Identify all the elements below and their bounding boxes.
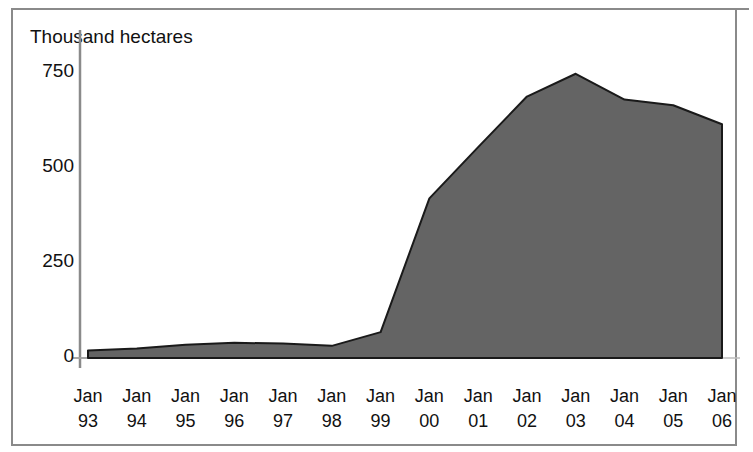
area-series-area [88,74,722,358]
x-tick-year: 95 [171,409,200,434]
x-tick-month: Jan [171,384,200,409]
x-tick-month: Jan [707,384,736,409]
x-tick-month: Jan [464,384,493,409]
x-tick-year: 01 [464,409,493,434]
x-axis-tick-labels: Jan93Jan94Jan95Jan96Jan97Jan98Jan99Jan00… [0,384,753,444]
x-tick-year: 03 [561,409,590,434]
x-tick-month: Jan [415,384,444,409]
data-area-group [88,74,722,358]
x-tick-year: 93 [73,409,102,434]
x-tick-month: Jan [269,384,298,409]
x-tick-month: Jan [317,384,346,409]
plot-area: Thousand hectares 0250500750 Jan93Jan94J… [0,0,753,452]
x-tick-month: Jan [561,384,590,409]
x-tick-month: Jan [512,384,541,409]
y-tick-label: 500 [22,155,74,177]
x-tick-label: Jan98 [317,384,346,434]
x-tick-month: Jan [366,384,395,409]
x-tick-month: Jan [659,384,688,409]
x-tick-label: Jan01 [464,384,493,434]
x-tick-label: Jan00 [415,384,444,434]
x-tick-month: Jan [73,384,102,409]
y-tick-label: 250 [22,250,74,272]
x-tick-label: Jan94 [122,384,151,434]
y-tick-label: 0 [22,345,74,367]
x-tick-year: 04 [610,409,639,434]
x-tick-year: 05 [659,409,688,434]
x-tick-label: Jan93 [73,384,102,434]
x-tick-year: 00 [415,409,444,434]
x-tick-year: 99 [366,409,395,434]
x-tick-label: Jan05 [659,384,688,434]
y-tick-label: 750 [22,60,74,82]
x-tick-label: Jan03 [561,384,590,434]
x-tick-year: 06 [707,409,736,434]
x-tick-label: Jan96 [220,384,249,434]
x-tick-year: 02 [512,409,541,434]
x-tick-label: Jan06 [707,384,736,434]
x-tick-year: 98 [317,409,346,434]
x-tick-label: Jan97 [269,384,298,434]
x-tick-year: 94 [122,409,151,434]
x-tick-label: Jan99 [366,384,395,434]
x-tick-label: Jan02 [512,384,541,434]
chart-figure: Thousand hectares 0250500750 Jan93Jan94J… [0,0,753,452]
x-tick-year: 97 [269,409,298,434]
x-tick-label: Jan04 [610,384,639,434]
x-tick-label: Jan95 [171,384,200,434]
x-tick-month: Jan [220,384,249,409]
x-tick-month: Jan [610,384,639,409]
x-tick-month: Jan [122,384,151,409]
x-tick-year: 96 [220,409,249,434]
